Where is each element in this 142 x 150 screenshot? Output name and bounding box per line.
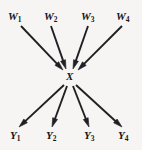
output-node-label-4: Y4 — [118, 130, 128, 143]
output-arrow-2-head — [52, 118, 58, 127]
input-node-label-3: W3 — [81, 11, 95, 24]
input-node-label-1: W1 — [8, 11, 22, 24]
output-node-label-2: Y2 — [46, 130, 56, 143]
input-arrow-3-shaft — [75, 26, 88, 62]
output-arrow-1-shaft — [24, 85, 64, 122]
diagram-canvas: W1 W2 W3 W4 X Y1 Y2 Y3 Y4 — [0, 0, 142, 150]
output-subscript-3: 3 — [91, 134, 95, 143]
input-node-label-4: W4 — [116, 11, 130, 24]
output-subscript-2: 2 — [53, 134, 57, 143]
output-symbol-3: Y — [84, 129, 91, 141]
output-node-label-3: Y3 — [84, 130, 94, 143]
output-symbol-2: Y — [46, 129, 53, 141]
input-subscript-2: 2 — [54, 15, 58, 24]
output-arrow-3-shaft — [73, 86, 86, 120]
input-symbol-2: W — [44, 10, 54, 22]
input-symbol-1: W — [8, 10, 18, 22]
output-arrow-3-head — [83, 118, 89, 127]
input-arrow-3-head — [73, 60, 78, 69]
output-node-label-1: Y1 — [10, 130, 20, 143]
input-node-label-2: W2 — [44, 11, 58, 24]
output-subscript-4: 4 — [125, 134, 129, 143]
input-subscript-1: 1 — [18, 15, 22, 24]
input-subscript-3: 3 — [91, 15, 95, 24]
output-arrow-4-shaft — [76, 85, 116, 122]
input-arrow-2-shaft — [51, 26, 64, 62]
input-symbol-3: W — [81, 10, 91, 22]
input-arrow-4-shaft — [83, 26, 122, 65]
input-subscript-4: 4 — [126, 15, 130, 24]
input-symbol-4: W — [116, 10, 126, 22]
output-symbol-4: Y — [118, 129, 125, 141]
center-node-label: X — [66, 71, 73, 82]
output-subscript-1: 1 — [17, 134, 21, 143]
output-symbol-1: Y — [10, 129, 17, 141]
